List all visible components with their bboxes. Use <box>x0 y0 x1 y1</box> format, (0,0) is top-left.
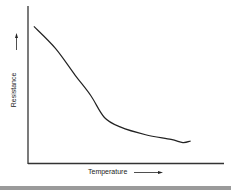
data-curve <box>34 26 191 142</box>
x-label-arrowhead-icon <box>158 171 163 174</box>
y-label-arrowhead-icon <box>15 33 18 38</box>
x-axis-label: Temperature <box>88 168 127 175</box>
y-axis-label: Resistance <box>3 55 23 125</box>
resistance-temperature-chart <box>0 0 231 190</box>
y-axis-label-text: Resistance <box>10 73 17 108</box>
bottom-divider <box>0 186 231 190</box>
